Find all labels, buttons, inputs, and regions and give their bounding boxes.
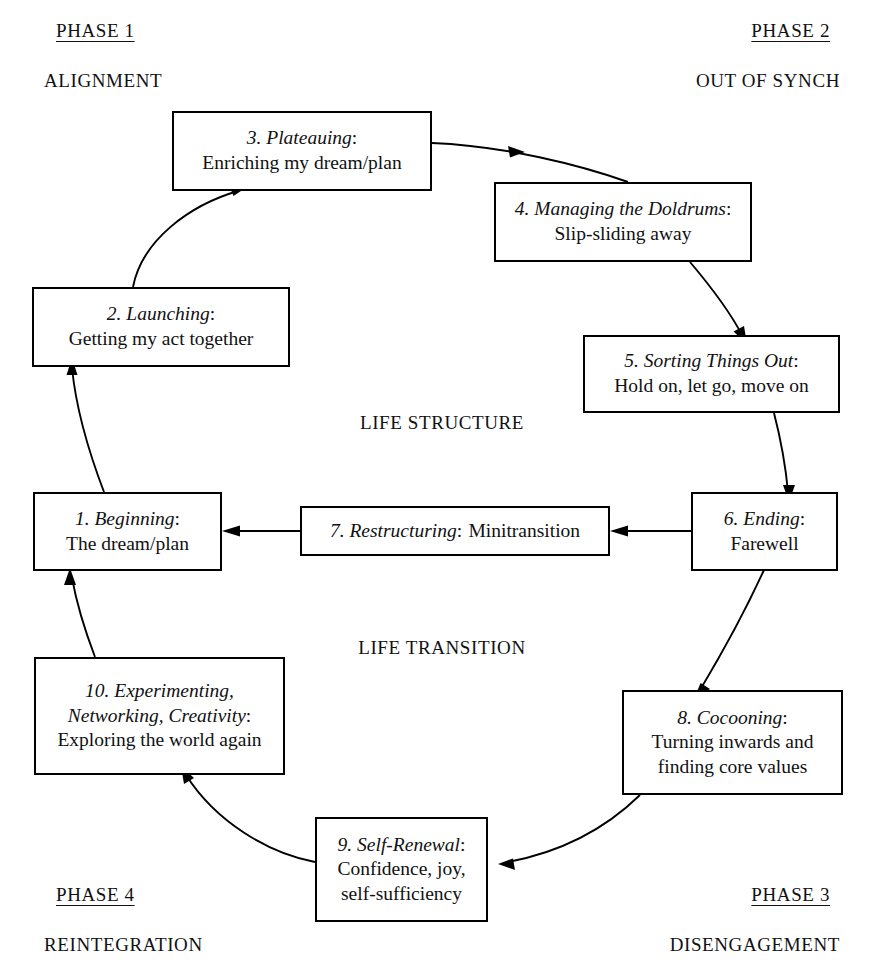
stage-2-title: 2. Launching: [107,302,215,327]
stage-4-line-1: Slip-sliding away [554,222,691,247]
stage-3-line-1: Enriching my dream/plan [202,151,401,176]
arrow-4-to-5 [690,262,747,344]
stage-5-title: 5. Sorting Things Out: [624,349,798,374]
stage-6-title: 6. Ending: [724,507,805,532]
stage-box-10[interactable]: 10. Experimenting, Networking, Creativit… [34,657,285,775]
arrow-2-to-3 [133,185,247,287]
arrow-8-to-9 [498,795,640,870]
stage-8-line-2: finding core values [658,755,807,780]
stage-box-4[interactable]: 4. Managing the Doldrums: Slip-sliding a… [494,182,752,262]
stage-box-1[interactable]: 1. Beginning: The dream/plan [33,492,222,571]
stage-5-line-1: Hold on, let go, move on [614,374,808,399]
stage-6-line-1: Farewell [730,532,798,557]
stage-10-title-line-2: Networking, Creativity: [68,704,251,729]
arrow-1-to-2 [67,358,105,492]
stage-7-line-1: Minitransition [469,519,581,544]
arrow-6-to-7 [610,526,691,537]
stage-10-line-1: Exploring the world again [57,728,261,753]
stage-9-line-2: self-sufficiency [341,882,462,907]
stage-box-3[interactable]: 3. Plateauing: Enriching my dream/plan [172,111,432,191]
arrow-9-to-10 [181,766,315,862]
stage-9-line-1: Confidence, joy, [337,857,465,882]
stage-3-title: 3. Plateauing: [247,126,358,151]
stage-box-6[interactable]: 6. Ending: Farewell [691,492,838,571]
arrow-10-to-1 [64,568,95,657]
stage-1-line-1: The dream/plan [66,532,189,557]
stage-4-title: 4. Managing the Doldrums: [515,197,732,222]
stage-box-9[interactable]: 9. Self-Renewal: Confidence, joy, self-s… [315,817,488,922]
stage-8-line-1: Turning inwards and [652,730,814,755]
arrow-6-to-8 [694,570,764,699]
arrow-3-to-4 [432,143,628,182]
stage-box-7[interactable]: 7. Restructuring: Minitransition [300,506,610,556]
stage-2-line-1: Getting my act together [69,327,254,352]
arrow-5-to-6 [774,413,795,502]
stage-7-title: 7. Restructuring: [330,519,462,544]
stage-9-title: 9. Self-Renewal: [338,833,466,858]
arrow-7-to-1 [222,526,300,537]
stage-10-title: 10. Experimenting, [85,679,234,704]
stage-box-8[interactable]: 8. Cocooning: Turning inwards and findin… [622,690,843,795]
stage-1-title: 1. Beginning: [75,507,180,532]
cycle-diagram: PHASE 1 ALIGNMENT PHASE 2 OUT OF SYNCH P… [0,0,884,978]
stage-box-2[interactable]: 2. Launching: Getting my act together [32,287,290,367]
stage-box-5[interactable]: 5. Sorting Things Out: Hold on, let go, … [583,335,840,413]
stage-8-title: 8. Cocooning: [677,706,788,731]
